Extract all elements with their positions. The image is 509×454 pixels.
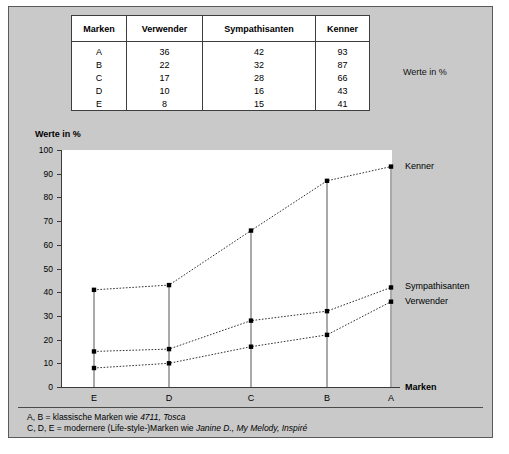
- footnote-line-1-brands: 4711, Tosca: [140, 412, 185, 422]
- y-axis-tick: [57, 316, 62, 317]
- y-axis-tick: [57, 150, 62, 151]
- y-axis-tick-label: 60: [29, 241, 53, 249]
- series-line-verwender: [94, 302, 391, 368]
- cell-verwender: 17: [126, 71, 202, 84]
- data-point-marker: [92, 366, 96, 370]
- x-axis-tick-label: D: [159, 393, 179, 403]
- data-point-marker: [325, 333, 329, 337]
- table-row: D 10 16 43: [72, 84, 369, 97]
- cell-marken: B: [72, 58, 126, 71]
- y-axis-tick: [57, 292, 62, 293]
- series-line-kenner: [94, 167, 391, 290]
- y-axis-tick-label: 50: [29, 265, 53, 273]
- cell-sympathisanten: 15: [203, 97, 316, 110]
- y-axis-tick-label: 40: [29, 288, 53, 296]
- data-table: Marken Verwender Sympathisanten Kenner A…: [72, 16, 369, 110]
- cell-kenner: 41: [315, 97, 369, 110]
- y-axis-tick-label: 30: [29, 312, 53, 320]
- y-axis-tick-label: 80: [29, 193, 53, 201]
- table-row: B 22 32 87: [72, 58, 369, 71]
- x-axis-tick-label: E: [84, 393, 104, 403]
- cell-sympathisanten: 32: [203, 58, 316, 71]
- data-point-marker: [325, 179, 329, 183]
- table-row: C 17 28 66: [72, 71, 369, 84]
- cell-verwender: 10: [126, 84, 202, 97]
- cell-verwender: 8: [126, 97, 202, 110]
- x-axis-tick-label: C: [241, 393, 261, 403]
- y-axis-tick: [57, 363, 62, 364]
- column-header-verwender: Verwender: [126, 16, 202, 42]
- series-label-sympathisanten: Sympathisanten: [405, 281, 470, 291]
- footnote-line-1-text: A, B = klassische Marken wie: [27, 412, 140, 422]
- y-axis-tick-label: 70: [29, 217, 53, 225]
- footnote-line-2: C, D, E = modernere (Life-style-)Marken …: [18, 423, 483, 434]
- cell-kenner: 93: [315, 42, 369, 59]
- footnote-line-2-text: C, D, E = modernere (Life-style-)Marken …: [27, 423, 196, 433]
- y-axis-tick: [57, 197, 62, 198]
- cell-kenner: 66: [315, 71, 369, 84]
- column-header-sympathisanten: Sympathisanten: [203, 16, 316, 42]
- data-point-marker: [167, 347, 171, 351]
- data-point-marker: [389, 299, 393, 303]
- table-header-row: Marken Verwender Sympathisanten Kenner: [72, 16, 369, 42]
- cell-kenner: 43: [315, 84, 369, 97]
- series-line-sympathisanten: [94, 287, 391, 351]
- cell-sympathisanten: 28: [203, 71, 316, 84]
- data-point-marker: [389, 164, 393, 168]
- cell-sympathisanten: 42: [203, 42, 316, 59]
- cell-marken: D: [72, 84, 126, 97]
- cell-marken: A: [72, 42, 126, 59]
- y-axis-tick: [57, 174, 62, 175]
- cell-marken: E: [72, 97, 126, 110]
- figure-panel: Marken Verwender Sympathisanten Kenner A…: [8, 6, 493, 438]
- y-axis-tick: [57, 387, 62, 388]
- y-axis-tick-label: 90: [29, 170, 53, 178]
- y-axis-tick: [57, 245, 62, 246]
- data-table-container: Marken Verwender Sympathisanten Kenner A…: [71, 15, 370, 111]
- data-point-marker: [167, 361, 171, 365]
- series-label-verwender: Verwender: [405, 296, 448, 306]
- y-axis-tick-label: 10: [29, 359, 53, 367]
- x-axis-tick-label: B: [317, 393, 337, 403]
- column-header-marken: Marken: [72, 16, 126, 42]
- x-axis-title: Marken: [405, 382, 437, 392]
- data-point-marker: [325, 309, 329, 313]
- data-point-marker: [92, 349, 96, 353]
- cell-marken: C: [72, 71, 126, 84]
- series-label-kenner: Kenner: [405, 161, 434, 171]
- data-point-marker: [167, 283, 171, 287]
- footnote-line-1: A, B = klassische Marken wie 4711, Tosca: [18, 412, 483, 423]
- cell-verwender: 22: [126, 58, 202, 71]
- y-axis-tick: [57, 221, 62, 222]
- y-axis-tick-label: 20: [29, 336, 53, 344]
- y-axis-tick: [57, 340, 62, 341]
- x-axis-tick-label: A: [381, 393, 401, 403]
- data-point-marker: [92, 288, 96, 292]
- column-header-kenner: Kenner: [315, 16, 369, 42]
- y-axis-tick-label: 0: [29, 383, 53, 391]
- chart-panel: Werte in % Marken 0102030405060708090100…: [17, 121, 484, 402]
- data-point-marker: [249, 318, 253, 322]
- cell-verwender: 36: [126, 42, 202, 59]
- table-row: E 8 15 41: [72, 97, 369, 110]
- table-side-note: Werte in %: [403, 67, 447, 77]
- table-row: A 36 42 93: [72, 42, 369, 59]
- cell-kenner: 87: [315, 58, 369, 71]
- data-point-marker: [249, 345, 253, 349]
- footnote-block: A, B = klassische Marken wie 4711, Tosca…: [18, 407, 483, 437]
- footnote-line-2-brands: Janine D., My Melody, Inspiré: [196, 423, 307, 433]
- cell-sympathisanten: 16: [203, 84, 316, 97]
- y-axis-tick-label: 100: [29, 146, 53, 154]
- data-point-marker: [249, 228, 253, 232]
- data-point-marker: [389, 285, 393, 289]
- y-axis-tick: [57, 269, 62, 270]
